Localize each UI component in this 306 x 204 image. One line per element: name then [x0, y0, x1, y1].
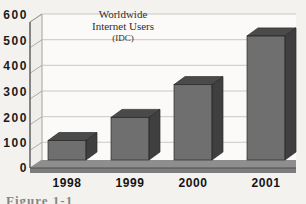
chart-title-source: (IDC) [58, 32, 188, 44]
x-label-2001: 2001 [238, 176, 294, 190]
y-tick-300: 300 [0, 86, 28, 98]
chart-floor-front [30, 168, 296, 173]
bar-side-face [212, 77, 223, 160]
y-tick-400: 400 [0, 60, 28, 72]
bar-chart: 600 500 400 300 200 100 0 1998 1999 2000… [0, 0, 306, 204]
x-label-1999: 1999 [102, 176, 158, 190]
x-label-2000: 2000 [165, 176, 221, 190]
chart-floor [30, 160, 296, 168]
bar-side-face [149, 109, 160, 160]
bar-front-face [174, 85, 212, 160]
chart-title-line-2: Internet Users [58, 20, 188, 32]
y-tick-600: 600 [0, 9, 28, 21]
figure-container: 600 500 400 300 200 100 0 1998 1999 2000… [0, 0, 306, 204]
figure-caption: Figure 1-1 [6, 193, 73, 204]
bar-front-face [247, 36, 285, 160]
bar-2000[interactable] [174, 77, 223, 160]
bar-1999[interactable] [111, 109, 160, 160]
bar-front-face [111, 117, 149, 160]
bar-1998[interactable] [48, 133, 97, 161]
x-label-1998: 1998 [39, 176, 95, 190]
chart-title-line-1: Worldwide [58, 8, 188, 20]
y-tick-100: 100 [0, 137, 28, 149]
chart-title: Worldwide Internet Users (IDC) [58, 8, 188, 44]
axis-depth-wall [30, 14, 42, 168]
bar-front-face [48, 141, 86, 161]
y-tick-500: 500 [0, 35, 28, 47]
y-tick-0: 0 [0, 162, 28, 174]
bar-2001[interactable] [247, 28, 296, 160]
y-tick-200: 200 [0, 112, 28, 124]
bar-side-face [285, 28, 296, 160]
